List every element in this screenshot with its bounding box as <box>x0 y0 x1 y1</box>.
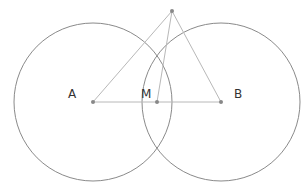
segment-pm <box>157 11 172 102</box>
label-b: B <box>234 87 242 101</box>
point-b[interactable] <box>219 100 223 104</box>
point-a[interactable] <box>91 100 95 104</box>
segment-pb <box>172 11 221 102</box>
geometry-diagram: A M B <box>0 0 307 193</box>
label-m: M <box>141 87 151 101</box>
segment-pa <box>93 11 172 102</box>
label-a: A <box>68 87 77 101</box>
point-m[interactable] <box>155 100 159 104</box>
point-p[interactable] <box>170 9 174 13</box>
